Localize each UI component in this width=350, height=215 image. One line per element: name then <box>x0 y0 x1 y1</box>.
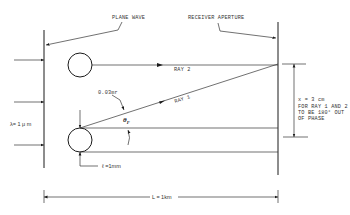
receiver-aperture-label: RECEIVER APERTURE <box>188 15 244 21</box>
angle-arc-arrow <box>128 130 130 145</box>
aperture-circle-top <box>68 53 92 77</box>
ray-1-label: RAY 1 <box>174 94 192 105</box>
separation-label: x = 3 cm <box>298 97 325 103</box>
wavelength-label: λ= 1 μ m <box>10 121 32 127</box>
diameter-arrow-bottom <box>80 152 98 166</box>
ray-1-line <box>80 64 278 128</box>
ray-2-label: RAY 2 <box>174 67 191 73</box>
note-line-3: OF PHASE <box>298 116 325 122</box>
optics-diagram: PLANE WAVE RECEIVER APERTURE RAY 2 RAY 1… <box>0 0 350 215</box>
plane-wave-leader <box>46 22 122 45</box>
distance-label: L = 1km <box>152 194 172 200</box>
ray-1-arrow <box>159 101 165 105</box>
theta-symbol: θF <box>123 116 130 125</box>
diameter-label: ℓ =1mm <box>102 163 121 169</box>
aperture-circle-bottom <box>68 128 92 152</box>
angle-value-label: 0.03mr <box>98 90 118 96</box>
ray-2-arrow <box>157 63 163 67</box>
plane-wave-label: PLANE WAVE <box>112 15 145 21</box>
receiver-aperture-leader <box>218 23 276 38</box>
angle-leader <box>112 95 124 110</box>
